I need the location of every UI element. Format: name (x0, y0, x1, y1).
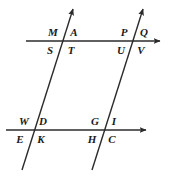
point-label-k: K (37, 134, 44, 145)
point-label-h: H (88, 134, 97, 145)
point-label-q: Q (140, 27, 148, 38)
right-transversal-line (92, 9, 143, 170)
point-label-a: A (70, 27, 77, 38)
point-label-v: V (137, 45, 144, 56)
point-label-i: I (112, 116, 116, 127)
point-label-e: E (16, 134, 23, 145)
point-label-d: D (39, 116, 47, 127)
point-label-m: M (48, 27, 58, 38)
point-label-s: S (47, 45, 53, 56)
point-label-c: C (108, 134, 115, 145)
geometry-diagram: M A S T P Q U V W D E K G I H C (0, 0, 170, 178)
point-label-w: W (19, 116, 29, 127)
point-label-u: U (117, 45, 125, 56)
point-label-t: T (68, 45, 75, 56)
point-label-g: G (91, 116, 99, 127)
point-label-p: P (121, 27, 128, 38)
